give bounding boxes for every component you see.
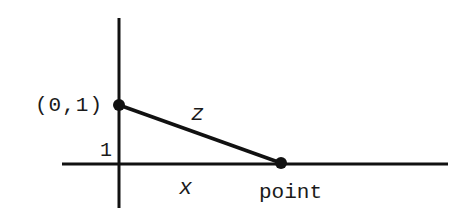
start-point-dot [113, 99, 125, 111]
end-point-dot [275, 157, 287, 169]
base-x-label: x [178, 176, 193, 201]
diagram-canvas: (0,1) z 1 x point [0, 0, 473, 215]
end-point-label: point [259, 181, 322, 204]
segment-z-label: z [191, 102, 204, 127]
height-label: 1 [100, 139, 112, 162]
start-point-label: (0,1) [35, 94, 103, 117]
